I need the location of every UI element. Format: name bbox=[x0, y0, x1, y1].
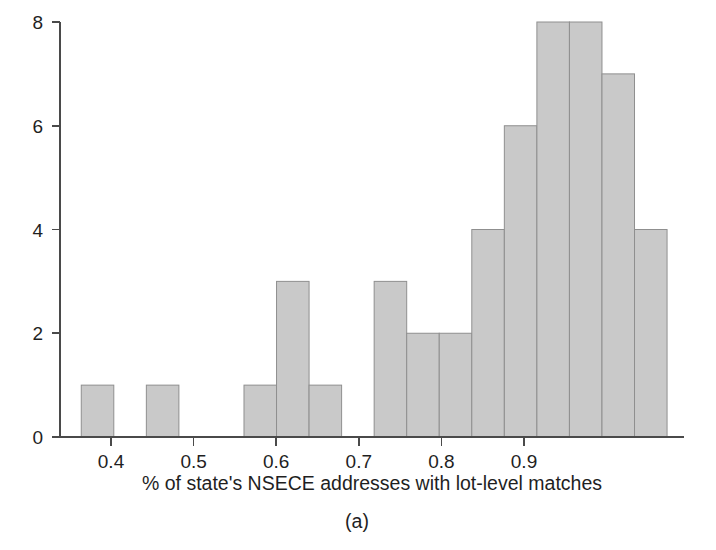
x-axis-ticks: 0.40.50.60.70.80.9 bbox=[98, 437, 537, 472]
y-tick-label: 4 bbox=[32, 220, 43, 241]
y-tick-label: 0 bbox=[32, 427, 43, 448]
x-tick-label: 0.4 bbox=[98, 451, 125, 472]
histogram-bars bbox=[81, 22, 667, 437]
histogram-bar bbox=[439, 333, 472, 437]
x-axis-title: % of state's NSECE addresses with lot-le… bbox=[142, 472, 602, 494]
histogram-bar bbox=[602, 74, 635, 437]
x-tick-label: 0.7 bbox=[346, 451, 372, 472]
histogram-bar bbox=[569, 22, 602, 437]
histogram-bar bbox=[407, 333, 440, 437]
histogram-bar bbox=[504, 126, 537, 437]
y-tick-label: 2 bbox=[32, 323, 43, 344]
histogram-chart: 02468 0.40.50.60.70.80.9 % of state's NS… bbox=[0, 0, 716, 550]
histogram-bar bbox=[537, 22, 570, 437]
histogram-bar bbox=[146, 385, 179, 437]
y-tick-label: 8 bbox=[32, 12, 43, 33]
x-tick-label: 0.9 bbox=[511, 451, 537, 472]
histogram-bar bbox=[244, 385, 277, 437]
histogram-bar bbox=[374, 281, 407, 437]
histogram-bar bbox=[472, 230, 505, 438]
x-tick-label: 0.8 bbox=[428, 451, 454, 472]
histogram-bar bbox=[635, 230, 668, 438]
x-tick-label: 0.5 bbox=[180, 451, 206, 472]
x-tick-label: 0.6 bbox=[263, 451, 289, 472]
figure-caption: (a) bbox=[345, 510, 369, 532]
figure-container: 02468 0.40.50.60.70.80.9 % of state's NS… bbox=[0, 0, 716, 550]
histogram-bar bbox=[277, 281, 310, 437]
y-axis-ticks: 02468 bbox=[32, 12, 60, 448]
histogram-bar bbox=[81, 385, 114, 437]
histogram-bar bbox=[309, 385, 342, 437]
y-tick-label: 6 bbox=[32, 116, 43, 137]
